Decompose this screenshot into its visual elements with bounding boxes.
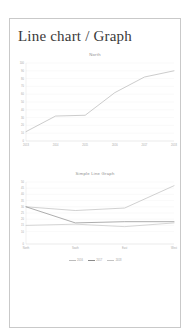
- svg-text:70: 70: [21, 84, 24, 88]
- svg-text:25: 25: [21, 211, 24, 215]
- legend-swatch-icon: [88, 260, 95, 261]
- svg-text:20: 20: [21, 217, 24, 221]
- svg-text:10: 10: [21, 131, 24, 135]
- svg-text:50: 50: [21, 180, 24, 184]
- svg-text:80: 80: [21, 77, 24, 81]
- chart-simple-line-gridlines: [26, 182, 174, 244]
- chart-simple-line-yticks: 0101520253035404550: [21, 180, 24, 246]
- chart-simple-line-plot: 0101520253035404550 NorthSouthEastWest: [10, 176, 180, 258]
- svg-text:45: 45: [21, 186, 24, 190]
- legend-label: 2017: [96, 259, 102, 262]
- chart-north-gridlines: [26, 63, 174, 141]
- chart-simple-line-svg: 0101520253035404550 NorthSouthEastWest: [10, 176, 180, 258]
- svg-text:East: East: [122, 246, 127, 250]
- legend-item[interactable]: 2018: [107, 259, 121, 262]
- svg-text:30: 30: [21, 116, 24, 120]
- svg-text:20: 20: [21, 123, 24, 127]
- svg-text:0: 0: [23, 139, 25, 143]
- legend-label: 2016: [77, 259, 83, 262]
- svg-text:35: 35: [21, 199, 24, 203]
- legend-label: 2018: [116, 259, 122, 262]
- svg-text:2017: 2017: [142, 143, 148, 147]
- chart-north-yticks: 0102030405060708090100: [20, 61, 25, 143]
- svg-text:15: 15: [21, 223, 24, 227]
- svg-text:2015: 2015: [82, 143, 88, 147]
- page-title: Line chart / Graph: [18, 28, 180, 45]
- document-page: Line chart / Graph North 010203040506070…: [9, 18, 181, 328]
- chart-north: North 0102030405060708090100 20132014201…: [10, 52, 180, 153]
- legend-swatch-icon: [107, 260, 114, 261]
- chart-simple-line: Simple Line Graph 0101520253035404550 No…: [10, 171, 180, 262]
- svg-text:North: North: [23, 246, 30, 250]
- chart-north-svg: 0102030405060708090100 20132014201520162…: [10, 57, 180, 153]
- svg-text:2013: 2013: [23, 143, 29, 147]
- svg-text:2014: 2014: [53, 143, 59, 147]
- svg-text:100: 100: [20, 61, 25, 65]
- chart-north-xticks: 201320142015201620172018: [23, 143, 177, 147]
- svg-text:40: 40: [21, 192, 24, 196]
- svg-text:South: South: [72, 246, 79, 250]
- chart-simple-line-series: [26, 186, 174, 227]
- legend-item[interactable]: 2016: [69, 259, 83, 262]
- chart-north-plot: 0102030405060708090100 20132014201520162…: [10, 57, 180, 153]
- svg-text:West: West: [171, 246, 177, 250]
- legend-item[interactable]: 2017: [88, 259, 102, 262]
- chart-simple-line-legend: 201620172018: [10, 259, 180, 262]
- chart-simple-line-xticks: NorthSouthEastWest: [23, 246, 177, 250]
- svg-text:50: 50: [21, 100, 24, 104]
- svg-text:2016: 2016: [112, 143, 118, 147]
- svg-text:40: 40: [21, 108, 24, 112]
- svg-text:0: 0: [23, 242, 25, 246]
- svg-text:90: 90: [21, 69, 24, 73]
- svg-text:30: 30: [21, 205, 24, 209]
- svg-text:60: 60: [21, 92, 24, 96]
- svg-text:10: 10: [21, 230, 24, 234]
- chart-north-series: [26, 71, 174, 132]
- svg-text:2018: 2018: [171, 143, 177, 147]
- legend-swatch-icon: [69, 260, 76, 261]
